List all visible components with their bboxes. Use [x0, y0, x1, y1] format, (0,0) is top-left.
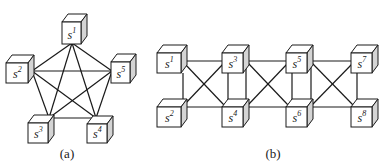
node-cube-s4: s4	[87, 116, 113, 143]
edge-s3-s5	[49, 71, 112, 118]
panel-b-ladder-network: s1s2s3s4s5s6s7s8 (b)	[157, 45, 378, 161]
node-superscript: 3	[232, 55, 237, 64]
edge-s1-s4	[72, 43, 96, 118]
node-cube-s7: s7	[351, 45, 378, 73]
node-superscript: 2	[170, 109, 174, 118]
node-cube-s3: s3	[28, 115, 54, 143]
node-cube-s5: s5	[111, 54, 136, 83]
edge-s2-s4	[32, 71, 96, 118]
caption-b: (b)	[265, 146, 280, 161]
node-cube-s5: s5	[286, 45, 313, 73]
node-cube-s4: s4	[222, 99, 249, 127]
nodes-b: s1s2s3s4s5s6s7s8	[157, 45, 378, 127]
node-cube-s8: s8	[351, 99, 378, 127]
node-cube-s1: s1	[157, 45, 187, 73]
edge-s4-s5	[96, 71, 112, 118]
node-cube-s2: s2	[157, 99, 187, 127]
node-cube-s3: s3	[222, 45, 249, 73]
node-superscript: 2	[18, 65, 22, 74]
edge-s1-s3	[49, 43, 72, 118]
edge-s2-s3	[32, 71, 49, 118]
edges-a	[32, 43, 112, 118]
node-superscript: 4	[98, 125, 102, 134]
node-superscript: 3	[38, 125, 43, 134]
network-topology-figure: s1s2s5s3s4 (a) s1s2s3s4s5s6s7s8 (b)	[0, 0, 391, 166]
node-superscript: 5	[121, 65, 125, 74]
caption-a: (a)	[60, 146, 74, 161]
node-superscript: 1	[170, 55, 174, 64]
panel-a-complete-graph: s1s2s5s3s4 (a)	[6, 14, 136, 161]
node-cube-s6: s6	[286, 99, 313, 127]
node-superscript: 1	[72, 26, 76, 35]
node-superscript: 8	[362, 109, 366, 118]
figure-svg: s1s2s5s3s4 (a) s1s2s3s4s5s6s7s8 (b)	[0, 0, 391, 166]
node-superscript: 5	[297, 55, 301, 64]
node-cube-s2: s2	[6, 55, 34, 83]
node-superscript: 6	[297, 109, 301, 118]
node-superscript: 4	[233, 109, 237, 118]
edge-s1-s5	[72, 43, 112, 71]
edges-b	[183, 61, 357, 107]
edge-s1-s2	[32, 43, 72, 71]
nodes-a: s1s2s5s3s4	[6, 14, 136, 143]
node-cube-s1: s1	[62, 14, 87, 44]
